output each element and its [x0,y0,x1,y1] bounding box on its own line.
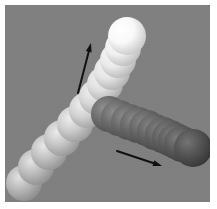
sphere-trajectory-scene [5,5,210,202]
figure-canvas [5,5,210,202]
figure-root [0,0,217,209]
sphere-marker [108,17,146,55]
